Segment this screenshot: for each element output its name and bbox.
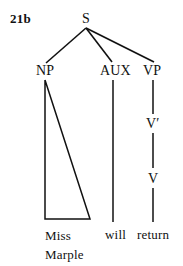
syntax-tree-figure: 21b S NP AUX VP V′ V Miss Marple will re… [0,0,183,266]
terminal-will: will [105,228,126,241]
branch-s-np [46,28,86,63]
terminal-miss-marple: Miss Marple [45,227,84,265]
terminal-line: Marple [45,246,84,265]
node-s: S [82,12,90,26]
example-number: 21b [10,12,31,25]
branch-s-vp [86,28,154,62]
node-aux: AUX [100,64,131,78]
node-v-bar: V′ [146,117,160,131]
np-triangle [45,80,90,219]
branch-s-aux [86,28,112,62]
node-np: NP [36,64,54,78]
node-v: V [148,172,158,186]
node-vp: VP [143,64,161,78]
terminal-line: Miss [45,227,84,246]
terminal-return: return [137,228,169,241]
